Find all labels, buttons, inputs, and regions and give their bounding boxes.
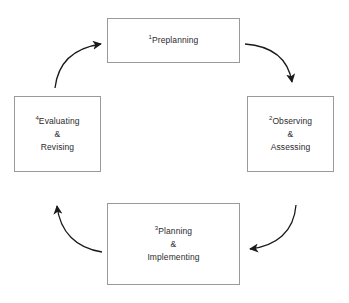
node-evaluating-label: 4Evaluating & Revising bbox=[35, 115, 79, 154]
arrow-observing-to-planning bbox=[250, 205, 296, 249]
node-observing-text: Observing & Assessing bbox=[271, 116, 312, 152]
cycle-diagram: 1Preplanning 2Observing & Assessing 3Pla… bbox=[0, 0, 349, 303]
arrow-planning-to-evaluating bbox=[57, 206, 102, 252]
arrow-evaluating-to-preplanning bbox=[55, 44, 101, 88]
arrow-preplanning-to-observing bbox=[245, 44, 292, 82]
node-preplanning[interactable]: 1Preplanning bbox=[107, 18, 240, 63]
node-observing[interactable]: 2Observing & Assessing bbox=[247, 96, 334, 172]
node-evaluating[interactable]: 4Evaluating & Revising bbox=[14, 96, 101, 172]
node-planning-label: 3Planning & Implementing bbox=[147, 225, 199, 264]
node-preplanning-text: Preplanning bbox=[152, 35, 198, 45]
node-observing-label: 2Observing & Assessing bbox=[269, 115, 312, 154]
node-planning[interactable]: 3Planning & Implementing bbox=[107, 203, 240, 285]
node-evaluating-text: Evaluating & Revising bbox=[39, 116, 80, 152]
node-preplanning-label: 1Preplanning bbox=[149, 34, 199, 47]
